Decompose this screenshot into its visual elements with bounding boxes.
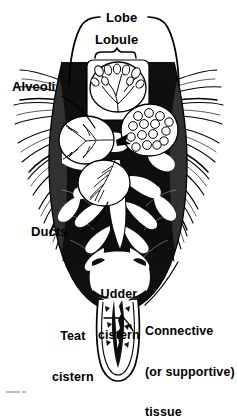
label-udder-cistern: Udder cistern <box>98 261 140 369</box>
label-teat-cistern-line1: Teat <box>52 330 94 344</box>
label-connective-line3: tissue <box>145 406 235 420</box>
lobule-brace <box>95 48 136 58</box>
label-connective-line1: Connective <box>145 325 235 339</box>
label-lobe: Lobe <box>106 11 137 25</box>
label-alveoli: Alveoli <box>12 80 55 94</box>
label-lobule: Lobule <box>95 33 138 47</box>
label-udder-cistern-line1: Udder <box>98 288 140 302</box>
page-artifact <box>6 391 26 393</box>
label-udder-cistern-line2: cistern <box>98 329 140 343</box>
label-ducts: Ducts <box>31 225 68 239</box>
label-teat-cistern-line2: cistern <box>52 371 94 385</box>
label-connective-tissue: Connective (or supportive) tissue <box>145 298 235 420</box>
label-connective-line2: (or supportive) <box>145 366 235 380</box>
label-teat-cistern: Teat cistern <box>52 303 94 411</box>
